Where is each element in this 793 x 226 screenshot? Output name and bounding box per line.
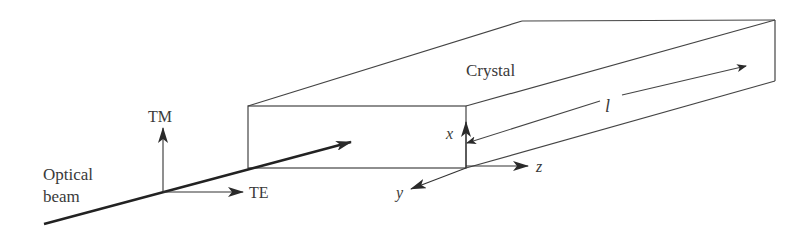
crystal-diagram: Crystal l x z y TM TE Optical beam bbox=[0, 0, 793, 226]
y-axis-arrow bbox=[411, 168, 466, 189]
length-label: l bbox=[605, 96, 610, 116]
crystal-front-face bbox=[248, 106, 466, 168]
crystal-bottom-right-edge bbox=[466, 81, 775, 168]
length-arrow-back bbox=[467, 101, 600, 143]
crystal-label: Crystal bbox=[466, 61, 515, 80]
optical-beam-label-line2: beam bbox=[43, 187, 80, 206]
x-axis-label: x bbox=[445, 125, 453, 142]
z-axis-label: z bbox=[535, 158, 543, 175]
crystal-block bbox=[248, 20, 775, 168]
length-arrow-front bbox=[622, 66, 746, 95]
y-axis-label: y bbox=[394, 184, 404, 202]
tm-label: TM bbox=[148, 108, 172, 125]
crystal-top-back-edge bbox=[522, 20, 775, 21]
te-label: TE bbox=[249, 184, 269, 201]
optical-beam-label-line1: Optical bbox=[43, 165, 93, 184]
